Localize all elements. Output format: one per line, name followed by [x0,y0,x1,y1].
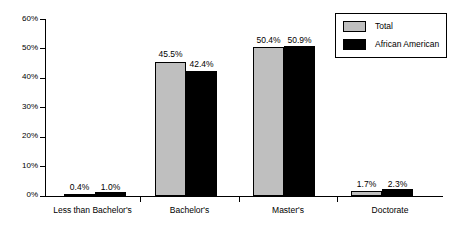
bar-total-2 [253,47,284,196]
y-tick-label: 40% [4,73,38,81]
bar-total-1 [155,62,186,196]
legend-swatch-african-american [343,39,366,50]
y-tick-label: 20% [4,132,38,140]
bar-label-african-american-2: 50.9% [274,36,325,45]
bar-label-african-american-1: 42.4% [176,60,227,69]
x-axis-label-1: Bachelor's [140,205,239,215]
x-axis-separator [337,196,338,202]
legend-item-african-american: African American [343,38,439,51]
legend-item-total: Total [343,20,393,33]
legend-swatch-total [343,21,366,32]
y-tick-label: 10% [4,162,38,170]
bar-african-american-2 [284,46,315,196]
bar-african-american-3 [382,189,413,196]
bar-label-african-american-0: 1.0% [85,183,136,192]
x-axis-label-0: Less than Bachelor's [45,205,140,215]
y-tick-label: 50% [4,44,38,52]
x-axis-separator [140,196,141,202]
y-tick-label: 30% [4,103,38,111]
x-axis-label-3: Doctorate [337,205,443,215]
legend: Total African American [335,13,447,58]
x-axis-label-2: Master's [239,205,337,215]
bar-african-american-0 [95,192,126,196]
bar-label-african-american-3: 2.3% [372,180,423,189]
y-tick-label: 60% [4,15,38,23]
x-axis-line [45,196,443,197]
bar-african-american-1 [186,71,217,196]
legend-label-african-american: African American [375,40,439,49]
bar-chart: 60% 50% 40% 30% 20% 10% 0% [0,0,454,235]
x-axis-separator [239,196,240,202]
bar-total-0 [64,194,95,196]
bar-label-total-1: 45.5% [145,50,196,59]
legend-label-total: Total [375,22,393,31]
bar-total-3 [351,191,382,196]
y-tick-label: 0% [4,191,38,199]
